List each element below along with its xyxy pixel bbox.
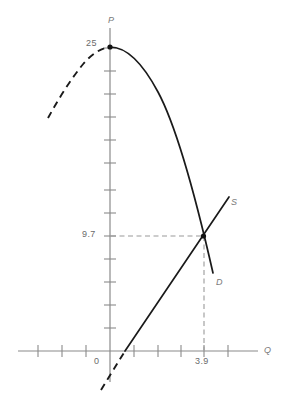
demand-curve-label: D xyxy=(216,278,223,287)
x-axis-label: Q xyxy=(264,346,271,355)
supply-demand-plot xyxy=(0,0,285,402)
y-tick-label-9-7: 9.7 xyxy=(82,230,96,239)
chart-figure: P Q 25 9.7 0 3.9 S D xyxy=(0,0,285,402)
y-tick-label-25: 25 xyxy=(86,39,97,48)
supply-curve-label: S xyxy=(231,198,237,207)
x-tick-label-3-9: 3.9 xyxy=(195,357,209,366)
supply-curve xyxy=(125,197,229,351)
demand-curve xyxy=(110,47,213,273)
demand-curve-dashed-extension xyxy=(48,47,110,118)
supply-curve-dashed-extension xyxy=(101,351,125,390)
equilibrium-point xyxy=(201,233,206,238)
x-tick-label-0: 0 xyxy=(94,357,99,366)
peak-point xyxy=(107,44,112,49)
y-axis-label: P xyxy=(108,16,114,25)
